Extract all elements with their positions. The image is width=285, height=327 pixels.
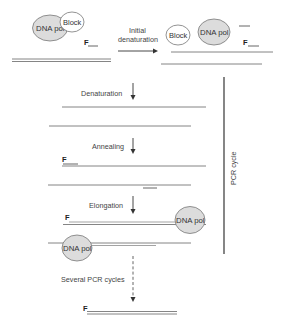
annealing-step-label: Annealing (92, 142, 124, 151)
arrow-down-icon (131, 95, 136, 100)
primer-f-label-elong: F (65, 213, 70, 222)
pcr-diagram: DNA pol Block F Initial denaturation Blo… (0, 0, 285, 327)
denaturation-label: denaturation (118, 35, 158, 44)
primer-f-label-free: F (243, 38, 248, 47)
pcr-cycle-bracket: PCR cycle (224, 77, 238, 254)
dna-pol-label-elong-top: DNA pol (176, 216, 205, 225)
denaturation-stage: Denaturation (49, 83, 206, 126)
post-initial-denaturation-stage: Block DNA pol F (161, 19, 273, 64)
several-cycles-label: Several PCR cycles (61, 275, 125, 284)
elongation-step-label: Elongation (89, 201, 123, 210)
several-cycles-stage: Several PCR cycles F (61, 256, 177, 314)
denaturation-step-label: Denaturation (81, 89, 122, 98)
arrow-down-icon (131, 149, 136, 154)
elongation-stage: Elongation F DNA pol DNA pol (48, 196, 206, 261)
annealing-stage: Annealing F (48, 138, 206, 188)
block-label-free: Block (169, 31, 188, 40)
initial-denaturation-step: Initial denaturation (118, 26, 158, 54)
dna-pol-label-free: DNA pol (200, 28, 229, 37)
arrow-right-icon (153, 49, 158, 54)
block-label: Block (63, 18, 82, 27)
initial-label: Initial (129, 26, 146, 35)
primer-f-label-annealed: F (62, 155, 67, 164)
pcr-cycle-label: PCR cycle (229, 151, 238, 185)
arrow-down-icon (131, 297, 136, 302)
dna-pol-label-elong-bottom: DNA pol (63, 244, 92, 253)
start-stage: DNA pol Block F (12, 12, 111, 62)
arrow-down-icon (131, 209, 136, 214)
